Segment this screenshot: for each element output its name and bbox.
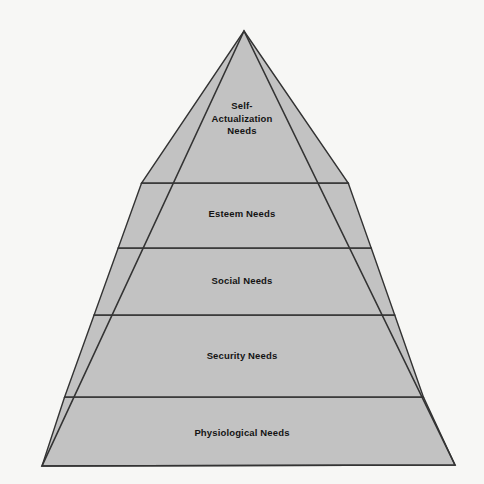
pyramid-diagram-canvas: Self- Actualization Needs Esteem Needs S… (0, 0, 484, 484)
pyramid-shape (0, 0, 484, 484)
pyramid-tier-security[interactable] (65, 315, 424, 397)
pyramid-tier-physiological[interactable] (42, 397, 455, 466)
pyramid-tier-self-actualization[interactable] (142, 31, 349, 183)
